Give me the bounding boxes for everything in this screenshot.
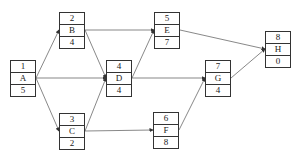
node-8: 8H0 (265, 31, 291, 68)
edge-1-3 (36, 78, 59, 131)
node-value: 4 (60, 37, 84, 48)
node-id: 5 (155, 13, 179, 25)
edge-2-4 (85, 30, 106, 78)
node-value: 8 (154, 137, 178, 148)
node-label: F (154, 125, 178, 137)
node-label: B (60, 25, 84, 37)
node-4: 4D4 (106, 60, 132, 97)
node-id: 8 (266, 32, 290, 44)
edge-4-5 (132, 30, 154, 78)
node-3: 3C2 (59, 113, 85, 150)
node-id: 6 (154, 113, 178, 125)
node-value: 2 (60, 138, 84, 149)
node-label: A (11, 73, 35, 85)
node-id: 1 (11, 61, 35, 73)
node-id: 2 (60, 13, 84, 25)
node-label: G (206, 73, 230, 85)
node-id: 7 (206, 61, 230, 73)
node-5: 5E7 (154, 12, 180, 49)
node-id: 3 (60, 114, 84, 126)
node-value: 7 (155, 37, 179, 48)
node-id: 4 (107, 61, 131, 73)
edge-1-2 (36, 30, 59, 78)
node-value: 4 (206, 85, 230, 96)
node-7: 7G4 (205, 60, 231, 97)
node-label: C (60, 126, 84, 138)
node-value: 5 (11, 85, 35, 96)
node-label: H (266, 44, 290, 56)
edge-3-4 (85, 78, 106, 131)
node-2: 2B4 (59, 12, 85, 49)
edge-6-7 (179, 78, 205, 130)
edge-7-8 (231, 49, 265, 78)
edge-5-8 (180, 30, 265, 49)
node-value: 0 (266, 56, 290, 67)
node-value: 4 (107, 85, 131, 96)
edge-3-6 (85, 130, 153, 131)
node-label: E (155, 25, 179, 37)
node-label: D (107, 73, 131, 85)
node-1: 1A5 (10, 60, 36, 97)
node-6: 6F8 (153, 112, 179, 149)
edges-layer (0, 0, 297, 159)
